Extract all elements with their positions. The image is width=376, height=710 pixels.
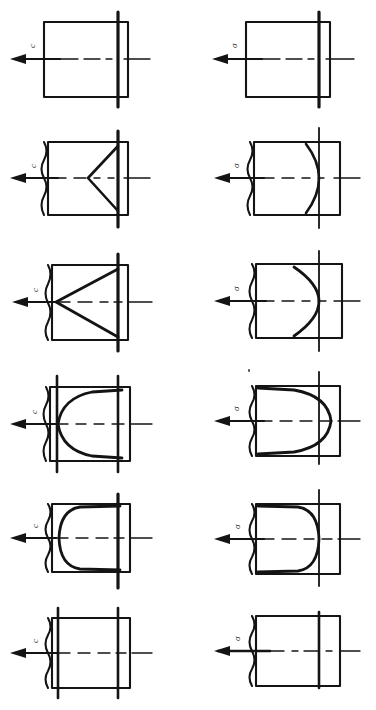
force-arrow-head — [212, 54, 228, 64]
load-label-r5-right: σ — [233, 525, 242, 529]
diagram-cell-r6-left: c — [0, 600, 188, 710]
diagram-cell-r3-left: c — [0, 238, 188, 364]
diagram-r6-right — [188, 600, 376, 710]
load-label-r4-right: σ — [232, 407, 241, 411]
load-label-r3-left: c — [31, 288, 40, 292]
stress-profile-deep-vee — [56, 269, 118, 337]
diagram-r3-left — [0, 238, 188, 364]
force-arrow-head — [214, 416, 230, 426]
load-label-r3-right: σ — [232, 287, 241, 291]
diagram-r5-right — [188, 484, 376, 600]
diagram-r4-left — [0, 364, 188, 484]
diagram-r2-right — [188, 118, 376, 238]
load-label-r1-left: c — [28, 44, 37, 48]
load-label-r6-left: c — [31, 639, 40, 643]
force-arrow-head — [214, 534, 230, 544]
load-label-r1-right: σ — [230, 44, 239, 48]
load-label-r2-right: σ — [232, 164, 241, 168]
figure-sheet: c σ — [0, 0, 376, 710]
force-arrow-head — [12, 297, 28, 307]
diagram-r3-right — [188, 238, 376, 364]
diagram-r2-left — [0, 118, 188, 238]
force-arrow-head — [10, 648, 26, 658]
load-label-r2-left: c — [29, 164, 38, 168]
diagram-grid: c σ — [0, 0, 376, 710]
force-arrow-head — [214, 646, 230, 656]
diagram-cell-r4-left: c — [0, 364, 188, 484]
diagram-r1-right — [188, 0, 376, 118]
load-label-r4-left: c — [30, 410, 39, 414]
diagram-cell-r2-left: c — [0, 118, 188, 238]
diagram-r6-left — [0, 600, 188, 710]
diagram-cell-r5-right: σ — [188, 484, 376, 600]
diagram-cell-r3-right: σ — [188, 238, 376, 364]
load-label-r5-left: c — [31, 524, 40, 528]
diagram-cell-r1-left: c — [0, 0, 188, 118]
load-label-r6-right: σ — [233, 637, 242, 641]
force-arrow-head — [214, 296, 230, 306]
force-arrow-head — [10, 533, 26, 543]
force-arrow-head — [214, 173, 230, 183]
force-arrow-head — [10, 173, 26, 183]
diagram-r1-left — [0, 0, 188, 118]
speck-artifact — [248, 369, 250, 372]
diagram-r5-left — [0, 484, 188, 600]
diagram-r4-right — [188, 364, 376, 484]
force-arrow-head — [10, 54, 26, 64]
diagram-cell-r5-left: c — [0, 484, 188, 600]
diagram-cell-r1-right: σ — [188, 0, 376, 118]
force-arrow-head — [10, 419, 26, 429]
diagram-cell-r4-right: σ — [188, 364, 376, 484]
diagram-cell-r6-right: σ — [188, 600, 376, 710]
diagram-cell-r2-right: σ — [188, 118, 376, 238]
